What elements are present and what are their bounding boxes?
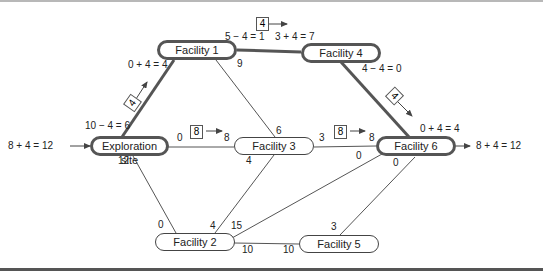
node-facility-1: Facility 1	[157, 40, 237, 60]
label-f1-f4-to: 3 + 4 = 7	[275, 31, 314, 43]
node-facility-4: Facility 4	[301, 43, 381, 63]
label-f2-f5-from: 10	[242, 244, 253, 256]
label-ex-f1-from: 10 − 4 = 6	[85, 120, 130, 132]
label-ex-f2-to: 0	[158, 219, 164, 231]
flow-box-f1-f4: 4	[256, 17, 269, 31]
flow-arrow-ex-f1	[136, 82, 147, 99]
label-ex-f1-to: 0 + 4 = 4	[128, 59, 167, 71]
edge-exploration-f2	[133, 156, 176, 233]
flow-box-f3-f6: 8	[334, 125, 347, 139]
label-f3-f6-from: 3	[319, 132, 325, 144]
label-f2-f6-to: 0	[356, 150, 362, 162]
outflow-label: 8 + 4 = 12	[476, 140, 521, 152]
label-f4-f6-from: 4 − 4 = 0	[362, 63, 401, 75]
label-f5-f6-from: 3	[331, 221, 337, 233]
label-f5-f6-to: 0	[393, 157, 399, 169]
node-facility-3: Facility 3	[234, 137, 314, 155]
label-f2-f5-to: 10	[283, 244, 294, 256]
node-facility-6: Facility 6	[376, 136, 456, 156]
label-ex-f2-from: 12	[118, 155, 129, 167]
label-f4-f6-to: 0 + 4 = 4	[420, 123, 459, 135]
edge-f1-f4	[237, 50, 301, 52]
flow-box-ex-f3: 8	[190, 125, 203, 139]
inflow-label: 8 + 4 = 12	[8, 140, 53, 152]
label-ex-f3-from: 0	[177, 132, 183, 144]
label-f3-f2-from: 4	[246, 155, 252, 167]
label-f3-f6-to: 8	[369, 132, 375, 144]
flow-arrow-f4-f6	[398, 102, 412, 116]
label-f2-f6-from: 15	[231, 220, 242, 232]
label-f1-f4-from: 5 − 4 = 1	[225, 31, 264, 43]
label-f1-f3-to: 6	[276, 125, 282, 137]
edge-f3-f2	[215, 155, 274, 233]
edge-f5-f6	[340, 157, 415, 235]
node-facility-2: Facility 2	[155, 233, 235, 251]
node-facility-5: Facility 5	[299, 235, 379, 253]
label-f1-f3-from: 9	[237, 58, 243, 70]
label-ex-f3-to: 8	[224, 132, 230, 144]
label-f3-f2-to: 4	[210, 220, 216, 232]
node-exploration-site: Exploration site	[90, 136, 169, 156]
edge-f2-f6	[232, 154, 382, 238]
edge-f1-f3	[216, 60, 275, 137]
edge-f3-f6	[314, 146, 376, 147]
